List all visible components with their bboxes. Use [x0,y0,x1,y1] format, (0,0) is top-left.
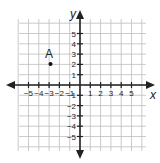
y-tick-label: 4 [72,40,77,49]
y-tick-label: −5 [67,133,77,142]
y-axis-up-arrow-icon [76,10,84,19]
x-tick-label: −4 [34,89,44,98]
x-axis-left-arrow-icon [6,81,15,89]
y-axis-label: y [69,7,77,21]
coordinate-plane: x y −5−4−3−2−11234554321−1−2−3−4−5 A [0,0,160,163]
point-a: A [45,47,53,66]
x-axis-label: x [149,88,157,102]
x-tick-label: 4 [119,89,124,98]
y-tick-label: −3 [67,112,77,121]
x-tick-label: −2 [55,89,65,98]
y-tick-label: 1 [72,71,77,80]
x-tick-label: 3 [109,89,114,98]
point-a-label: A [45,47,53,61]
y-tick-label: 5 [72,30,77,39]
y-tick-label: −1 [67,91,77,100]
y-axis-down-arrow-icon [76,150,84,159]
x-tick-label: −3 [45,89,55,98]
x-tick-label: 1 [88,89,93,98]
x-tick-label: 5 [129,89,134,98]
y-tick-label: −4 [67,122,77,131]
point-a-dot [49,62,53,66]
x-tick-label: 2 [98,89,103,98]
y-tick-label: −2 [67,102,77,111]
x-tick-label: −5 [24,89,34,98]
y-tick-label: 2 [72,60,77,69]
y-tick-label: 3 [72,50,77,59]
